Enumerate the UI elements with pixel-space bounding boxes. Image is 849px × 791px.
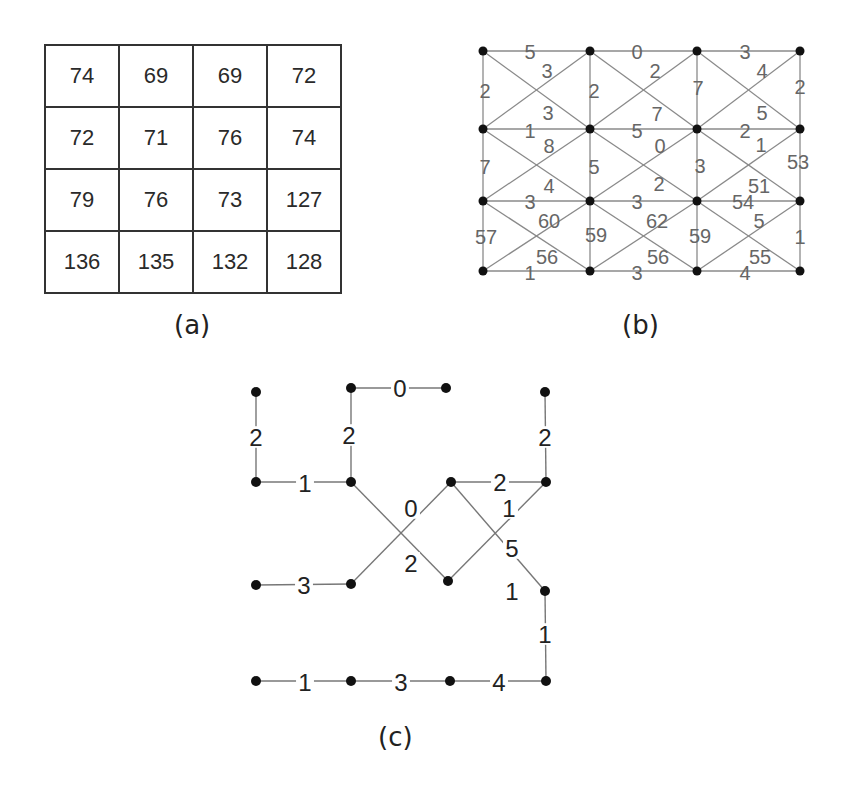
edge-weight-label: 5	[753, 210, 764, 232]
graph-node	[479, 47, 488, 56]
edge-weight-label: 2	[493, 469, 506, 496]
graph-node	[346, 383, 356, 393]
graph-node	[541, 477, 551, 487]
edge-weight-label: 3	[297, 572, 310, 599]
graph-node	[693, 197, 702, 206]
graph-node	[251, 477, 261, 487]
panel-c-graph: 2022122051311341	[247, 375, 554, 696]
grid-row: 74 69 69 72	[45, 45, 341, 107]
graph-node	[693, 267, 702, 276]
edge-weight-label: 2	[649, 60, 660, 82]
graph-edge	[448, 482, 546, 581]
edge-weight-label: 3	[631, 191, 642, 213]
grid-cell: 71	[119, 107, 193, 169]
graph-node	[479, 125, 488, 134]
edge-weight-label: 3	[524, 191, 535, 213]
graph-node	[586, 125, 595, 134]
caption-c: (c)	[378, 722, 413, 752]
edge-weight-label: 3	[631, 262, 642, 284]
grid-row: 72 71 76 74	[45, 107, 341, 169]
edge-weight-label: 3	[394, 669, 407, 696]
graph-node	[586, 267, 595, 276]
graph-node	[796, 267, 805, 276]
edge-weight-label: 1	[538, 621, 551, 648]
edge-weight-label: 0	[393, 375, 406, 402]
caption-b: (b)	[622, 310, 659, 340]
edge-weight-label: 1	[505, 578, 518, 605]
graph-node	[346, 477, 356, 487]
edge-weight-label: 3	[739, 41, 750, 63]
graph-node	[796, 197, 805, 206]
edge-weight-label: 2	[588, 80, 599, 102]
edge-weight-label: 0	[404, 495, 417, 522]
grid-cell: 74	[45, 45, 119, 107]
caption-a: (a)	[174, 310, 210, 340]
edge-weight-label: 3	[541, 60, 552, 82]
graph-node	[445, 676, 455, 686]
edge-weight-label: 59	[585, 224, 607, 246]
grid-cell: 72	[267, 45, 341, 107]
edge-weight-label: 5	[524, 41, 535, 63]
edge-weight-label: 3	[694, 155, 705, 177]
graph-node	[796, 47, 805, 56]
edge-weight-label: 7	[651, 103, 662, 125]
edge-weight-label: 4	[756, 60, 767, 82]
edge-weight-label: 2	[249, 424, 262, 451]
graph-node	[541, 676, 551, 686]
edge-weight-label: 5	[588, 156, 599, 178]
edge-weight-label: 2	[342, 422, 355, 449]
grid-cell: 127	[267, 169, 341, 231]
grid-cell: 128	[267, 231, 341, 293]
edge-weight-label: 5	[631, 120, 642, 142]
edge-weight-label: 62	[646, 210, 668, 232]
edge-weight-label: 2	[538, 424, 551, 451]
edge-weight-label: 1	[794, 226, 805, 248]
edge-weight-label: 1	[298, 669, 311, 696]
grid-row: 79 76 73 127	[45, 169, 341, 231]
grid-cell: 73	[193, 169, 267, 231]
graph-node	[446, 477, 456, 487]
graph-node	[441, 383, 451, 393]
edge-weight-label: 8	[543, 135, 554, 157]
edge-weight-label: 2	[653, 173, 664, 195]
edge-weight-label: 4	[492, 669, 505, 696]
edge-weight-label: 57	[475, 226, 497, 248]
graph-node	[540, 387, 550, 397]
edge-weight-label: 3	[542, 102, 553, 124]
grid-cell: 69	[119, 45, 193, 107]
graph-node	[479, 197, 488, 206]
grid-cell: 74	[267, 107, 341, 169]
graph-node	[251, 580, 261, 590]
edge-weight-label: 53	[787, 151, 809, 173]
graph-node	[693, 47, 702, 56]
grid-cell: 79	[45, 169, 119, 231]
graph-node	[796, 125, 805, 134]
edge-weight-label: 60	[538, 210, 560, 232]
panel-a-pixel-grid: 74 69 69 72 72 71 76 74 79 76 73 127 136…	[44, 44, 342, 294]
edge-weight-label: 0	[631, 41, 642, 63]
edge-weight-label: 2	[479, 80, 490, 102]
edge-weight-label: 59	[689, 225, 711, 247]
panel-b-graph: 5031523354134227275353575959133275484021…	[472, 41, 811, 284]
edge-weight-label: 2	[739, 120, 750, 142]
edge-weight-label: 56	[536, 246, 558, 268]
edge-weight-label: 56	[647, 246, 669, 268]
graph-edge	[451, 482, 545, 591]
graph-node	[586, 197, 595, 206]
graph-node	[251, 676, 261, 686]
graph-node	[346, 676, 356, 686]
edge-weight-label: 1	[755, 134, 766, 156]
edge-weight-label: 55	[749, 246, 771, 268]
edge-layer	[256, 388, 546, 681]
grid-cell: 132	[193, 231, 267, 293]
label-layer: 2022122051311341	[247, 375, 554, 696]
edge-weight-label: 1	[298, 470, 311, 497]
grid-row: 136 135 132 128	[45, 231, 341, 293]
graph-node	[586, 47, 595, 56]
grid-cell: 76	[193, 107, 267, 169]
graph-edge	[351, 482, 448, 581]
grid-cell: 135	[119, 231, 193, 293]
edge-weight-label: 7	[479, 156, 490, 178]
edge-weight-label: 2	[794, 76, 805, 98]
graph-node	[251, 387, 261, 397]
